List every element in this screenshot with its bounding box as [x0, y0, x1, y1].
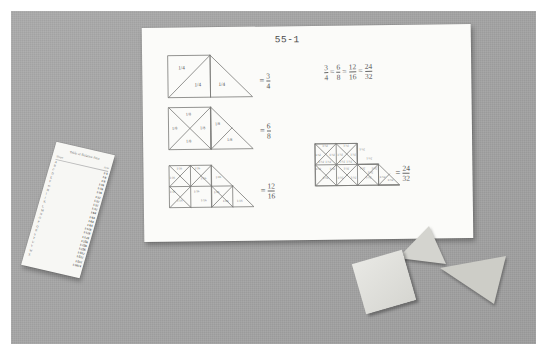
piece-label: 1/32	[337, 154, 343, 157]
piece-label: 1/16	[216, 176, 222, 179]
equals-sign: =	[260, 125, 265, 135]
worksheet-code: 55-1	[275, 34, 300, 45]
figure-quarters-result: = 3 4	[259, 72, 270, 89]
piece-label: 1/32	[329, 154, 335, 157]
strip-cell-shape: X	[28, 253, 31, 256]
piece-label: 1/4	[218, 82, 225, 87]
piece-label: 1/16	[194, 167, 200, 170]
piece-label: 1/16	[194, 190, 200, 193]
piece-label: 1/32	[388, 179, 394, 182]
piece-label: 1/16	[177, 200, 183, 203]
piece-label: 1/16	[170, 191, 176, 194]
piece-label: 1/32	[351, 176, 357, 179]
result-fraction: 24 32	[402, 165, 410, 182]
figure-eighths-result: = 6 8	[260, 122, 271, 139]
strip-header-shape: Shape	[56, 155, 63, 159]
strip-header-area: Area	[103, 166, 109, 170]
piece-label: 1/16	[201, 199, 207, 202]
result-fraction: 12 16	[268, 182, 276, 199]
piece-label: 1/32	[339, 161, 345, 164]
piece-label: 1/16	[223, 200, 229, 203]
result-fraction: 6 8	[267, 122, 271, 139]
piece-label: 1/32	[315, 168, 321, 171]
piece-label: 1/16	[237, 200, 243, 203]
piece-label: 1/32	[343, 144, 349, 147]
equals-sign: =	[330, 67, 335, 76]
piece-label: 1/32	[329, 168, 335, 171]
piece-label: 1/16	[170, 177, 176, 180]
equals-sign: =	[358, 66, 363, 75]
eq-fraction-4: 24 32	[365, 63, 373, 80]
piece-label: 1/16	[214, 191, 220, 194]
piece-label: 1/8	[200, 126, 205, 130]
equals-sign: =	[342, 67, 347, 76]
strip-cell-area: 1/1024	[72, 263, 81, 268]
equivalence-equation: 3 4 = 6 8 = 12 16 = 24	[324, 63, 373, 81]
equals-sign: =	[395, 167, 400, 177]
piece-label: 1/32	[366, 176, 372, 179]
piece-label: 1/32	[338, 177, 344, 180]
equals-sign: =	[259, 75, 264, 85]
figure-thirtyseconds-drawing	[313, 140, 444, 202]
piece-label: 1/32	[322, 145, 328, 148]
piece-label: 1/32	[318, 161, 324, 164]
figure-thirtyseconds: 1/32 1/32 1/32 1/32 1/32 1/32 1/32 1/32 …	[313, 140, 444, 202]
eq-fraction-3: 12 16	[349, 63, 357, 80]
piece-label: 1/32	[350, 153, 356, 156]
figure-sixteenths-result: = 12 16	[261, 182, 276, 199]
piece-label: 1/32	[343, 167, 349, 170]
piece-label: 1/32	[366, 157, 372, 160]
piece-label: 1/8	[186, 112, 191, 116]
photo-scene: 55-1 1/4 1/4 1/4 = 3 4	[0, 0, 547, 355]
result-fraction: 3 4	[266, 72, 270, 89]
piece-label: 1/32	[315, 154, 321, 157]
piece-label: 1/8	[186, 139, 191, 143]
equals-sign: =	[261, 185, 266, 195]
piece-label: 1/16	[201, 177, 207, 180]
piece-label: 1/32	[323, 177, 329, 180]
piece-label: 1/32	[380, 176, 386, 179]
piece-label: 1/4	[178, 65, 185, 70]
piece-label: 1/32	[367, 171, 373, 174]
piece-label: 1/32	[359, 167, 365, 170]
piece-label: 1/8	[227, 138, 232, 142]
piece-label: 1/4	[194, 82, 201, 87]
piece-label: 1/8	[215, 122, 220, 126]
piece-label: 1/32	[359, 148, 365, 151]
piece-label: 1/16	[176, 168, 182, 171]
eq-fraction-2: 6 8	[336, 64, 340, 81]
piece-label: 1/32	[346, 160, 352, 163]
figure-thirtyseconds-result: = 24 32	[395, 165, 410, 182]
piece-label: 1/8	[172, 127, 177, 131]
piece-label: 1/32	[325, 161, 331, 164]
worksheet-paper[interactable]: 55-1 1/4 1/4 1/4 = 3 4	[142, 24, 474, 242]
paper-triangle-right[interactable]	[438, 248, 510, 308]
eq-fraction-1: 3 4	[324, 64, 328, 81]
